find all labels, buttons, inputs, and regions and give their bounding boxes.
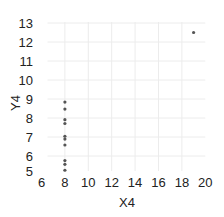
y-tick-label: 5: [26, 164, 33, 179]
x-tick-label: 18: [175, 175, 189, 190]
x-tick-label: 20: [198, 175, 212, 190]
data-point: [63, 107, 66, 110]
x-tick-label: 14: [128, 175, 142, 190]
x-tick-label: 10: [81, 175, 95, 190]
y-tick-label: 12: [19, 35, 33, 50]
x-tick-label: 6: [38, 175, 45, 190]
x-tick-label: 12: [104, 175, 118, 190]
x-tick-label: 8: [61, 175, 68, 190]
y-tick-label: 8: [26, 111, 33, 126]
data-points: [63, 31, 195, 172]
data-point: [63, 100, 66, 103]
y-axis-label: Y4: [8, 95, 23, 111]
grid-lines: [48, 22, 206, 171]
scatter-plot: 5678910111213 68101214161820 Y4 X4: [0, 0, 224, 217]
data-point: [63, 137, 66, 140]
data-point: [63, 122, 66, 125]
data-point: [192, 31, 195, 34]
data-point: [63, 135, 66, 138]
x-axis-label: X4: [119, 195, 135, 210]
y-tick-label: 11: [20, 54, 34, 69]
y-tick-label: 13: [19, 16, 33, 31]
x-tick-label: 16: [151, 175, 165, 190]
y-tick-label: 7: [26, 130, 33, 145]
y-tick-label: 9: [26, 92, 33, 107]
y-tick-label: 10: [19, 73, 33, 88]
data-point: [63, 118, 66, 121]
data-point: [63, 163, 66, 166]
data-point: [63, 169, 66, 172]
data-point: [63, 143, 66, 146]
data-point: [63, 159, 66, 162]
chart-container: 5678910111213 68101214161820 Y4 X4: [0, 0, 224, 217]
y-tick-label: 6: [26, 149, 33, 164]
x-axis-ticks: 68101214161820: [38, 175, 213, 190]
